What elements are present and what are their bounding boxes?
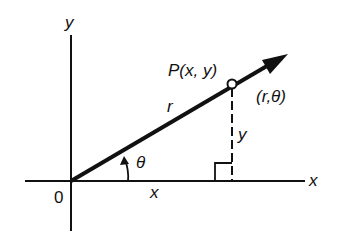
point-cartesian-label: P(x, y) <box>168 62 217 79</box>
theta-label: θ <box>136 154 145 171</box>
y-axis-label: y <box>65 14 74 31</box>
horizontal-x-label: x <box>150 184 159 201</box>
radius-label: r <box>167 98 173 115</box>
theta-arc-arrow-icon <box>120 156 129 165</box>
vertical-y-label: y <box>238 126 247 143</box>
x-axis-label: x <box>309 172 318 189</box>
origin-label: 0 <box>54 189 63 206</box>
point-p-marker <box>228 80 237 89</box>
polar-coordinates-diagram: y x 0 P(x, y) (r,θ) r x y θ <box>0 0 337 239</box>
radius-vector <box>71 63 272 181</box>
arrowhead-icon <box>262 54 288 74</box>
diagram-graphics <box>0 0 337 239</box>
point-polar-label: (r,θ) <box>256 88 286 105</box>
right-angle-marker <box>215 163 232 181</box>
